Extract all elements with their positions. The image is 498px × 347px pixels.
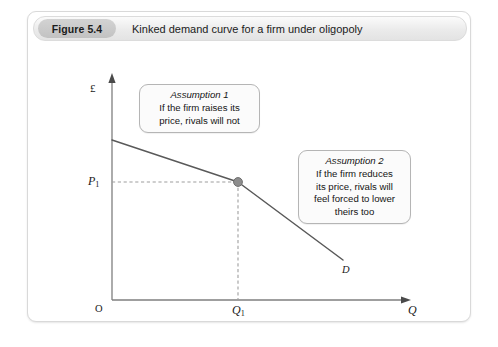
origin-label: O [95,303,103,314]
plot-area: £ P1 O Q1 Q D Assumption 1 If the firm r… [33,45,467,317]
quantity-label-letter: Q [232,303,241,317]
x-axis-label: Q [408,303,417,318]
assumption-2-line-1: If the firm reduces [305,168,404,180]
kink-point-marker [234,178,243,187]
assumption-1-title: Assumption 1 [146,89,253,101]
assumption-1-line-2: price, rivals will not [146,115,253,127]
figure-title: Kinked demand curve for a firm under oli… [132,23,363,35]
assumption-2-title: Assumption 2 [305,155,404,167]
assumption-2-line-2: its price, rivals will [305,181,404,193]
assumption-2-line-4: theirs too [305,206,404,218]
assumption-1-line-1: If the firm raises its [146,102,253,114]
figure-header: Figure 5.4 Kinked demand curve for a fir… [33,16,467,41]
assumption-1-callout: Assumption 1 If the firm raises its pric… [139,84,260,133]
price-axis-tick-label: P1 [88,174,99,189]
figure-card: Figure 5.4 Kinked demand curve for a fir… [27,11,471,322]
assumption-2-line-3: feel forced to lower [305,193,404,205]
price-label-subscript: 1 [95,180,99,189]
y-axis-label: £ [90,82,96,94]
figure-number-badge: Figure 5.4 [38,19,116,38]
quantity-axis-tick-label: Q1 [232,303,245,318]
demand-curve-label: D [342,264,350,275]
quantity-label-subscript: 1 [241,309,245,318]
y-axis [108,73,115,300]
x-axis [112,296,411,303]
assumption-2-callout: Assumption 2 If the firm reduces its pri… [298,150,411,224]
